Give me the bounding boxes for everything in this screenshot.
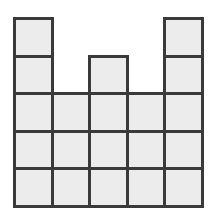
grid-cell: [126, 167, 167, 208]
grid-cell: [163, 55, 204, 96]
grid-cell: [13, 92, 54, 133]
grid-cell: [163, 17, 204, 58]
grid-cell: [51, 130, 92, 171]
grid-cell: [51, 167, 92, 208]
grid-cell: [13, 167, 54, 208]
grid-cell: [126, 130, 167, 171]
square-grid-figure: [0, 0, 209, 221]
grid-cell: [163, 167, 204, 208]
grid-cell: [13, 17, 54, 58]
grid-cell: [51, 92, 92, 133]
grid-cell: [163, 130, 204, 171]
grid-cell: [88, 130, 129, 171]
grid-cell: [13, 55, 54, 96]
grid-cell: [88, 92, 129, 133]
grid-cell: [88, 167, 129, 208]
grid-cell: [88, 55, 129, 96]
grid-cell: [126, 92, 167, 133]
grid-cell: [13, 130, 54, 171]
grid-cell: [163, 92, 204, 133]
